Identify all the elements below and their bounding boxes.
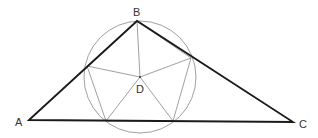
point-d [139,76,141,78]
label-b: B [133,6,140,18]
segment-d-pac1 [106,77,140,121]
segment-db [137,21,140,77]
inscribed-pentagon [87,21,191,121]
label-c: C [299,118,307,130]
spokes-from-d [87,21,191,121]
triangle-abc [29,21,293,122]
segment-d-pac2 [140,77,173,121]
segment-d-pab [87,66,140,77]
label-d: D [136,83,144,95]
label-a: A [15,116,23,128]
geometry-diagram: A B C D [0,0,318,138]
segment-d-pbc [140,58,191,77]
